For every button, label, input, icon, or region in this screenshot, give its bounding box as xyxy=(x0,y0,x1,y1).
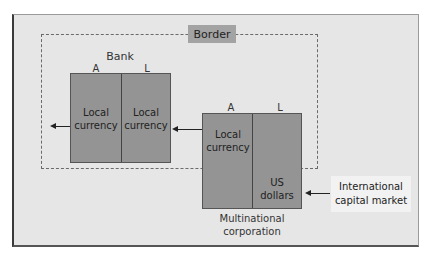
mnc-title-line1: Multinational xyxy=(212,212,292,225)
mnc-asset-line1: Local xyxy=(203,128,253,141)
mnc-balance-sheet: Local currency US dollars xyxy=(202,113,302,209)
bank-liabilities: Local currency xyxy=(121,106,171,132)
bank-liability-line1: Local xyxy=(121,106,171,119)
bank-asset-line2: currency xyxy=(71,119,121,132)
intl-to-mnc-arrow-line xyxy=(310,193,330,194)
international-capital-market-box: International capital market xyxy=(331,176,411,212)
mnc-liabilities: US dollars xyxy=(252,176,302,202)
border-label: Border xyxy=(188,25,236,43)
intl-line1: International xyxy=(331,180,411,194)
intl-line2: capital market xyxy=(331,194,411,208)
arrow-left-icon xyxy=(172,126,178,132)
arrow-left-icon xyxy=(50,123,56,129)
bank-title: Bank xyxy=(100,50,140,63)
bank-balance-sheet: Local currency Local currency xyxy=(70,73,171,163)
mnc-liability-line2: dollars xyxy=(252,189,302,202)
arrow-left-icon xyxy=(305,190,311,196)
bank-asset-line1: Local xyxy=(71,106,121,119)
mnc-asset-line2: currency xyxy=(203,141,253,154)
mnc-title-line2: corporation xyxy=(212,225,292,238)
bank-outflow-arrow-line xyxy=(55,126,70,127)
mnc-liability-line1: US xyxy=(252,176,302,189)
mnc-assets: Local currency xyxy=(203,128,253,154)
border-label-text: Border xyxy=(194,28,231,41)
mnc-to-bank-arrow-line xyxy=(178,129,202,130)
bank-liability-line2: currency xyxy=(121,119,171,132)
mnc-title: Multinational corporation xyxy=(212,212,292,238)
bank-assets: Local currency xyxy=(71,106,121,132)
